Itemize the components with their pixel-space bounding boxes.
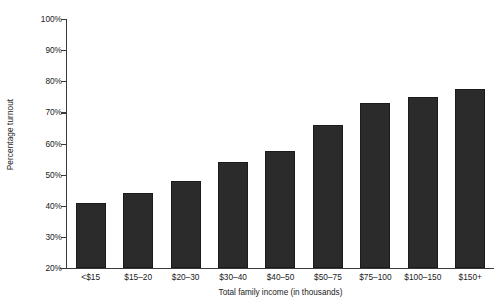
bar-slot [399,19,446,268]
x-axis-tick-label: $75–100 [359,272,391,282]
y-axis-tick-label: 60% [22,139,62,149]
y-axis-tick-label: 50% [22,170,62,180]
bar-slot [352,19,399,268]
bar[interactable] [171,181,201,268]
bar[interactable] [123,193,153,268]
y-axis-tick-label: 40% [22,201,62,211]
y-axis-tick-label: 80% [22,76,62,86]
y-axis-title: Percentage turnout [0,0,22,268]
bar-slot [257,19,304,268]
bar-slot [114,19,161,268]
y-axis-title-text: Percentage turnout [7,98,16,169]
x-axis-tick-label: $40–50 [267,272,295,282]
x-axis-tick-label: $100–150 [404,272,441,282]
y-axis-tick-label: 70% [22,107,62,117]
y-axis-tick-mark [61,81,67,82]
bar[interactable] [76,203,106,268]
x-axis-tick-label: $150+ [459,272,482,282]
y-axis-tick-mark [61,19,67,20]
x-axis-tick-label: $15–20 [124,272,152,282]
bar[interactable] [218,162,248,268]
x-axis-title: Total family income (in thousands) [67,288,494,297]
bar-slot [67,19,114,268]
plot-area [67,19,494,268]
y-axis-tick-label: 90% [22,45,62,55]
x-axis-tick-label: <$15 [81,272,100,282]
y-axis-tick-mark [61,50,67,51]
y-axis-tick-mark [61,268,67,269]
y-axis-tick-mark [61,112,67,113]
bar-slot [162,19,209,268]
y-axis-tick-mark [61,144,67,145]
y-axis-tick-label: 100% [22,14,62,24]
bar[interactable] [455,89,485,268]
y-axis-tick-label: 20% [22,263,62,273]
bar[interactable] [265,151,295,268]
y-axis-tick-mark [61,175,67,176]
bar[interactable] [360,103,390,268]
bar[interactable] [408,97,438,268]
x-axis-tick-label: $20–30 [172,272,200,282]
bar[interactable] [313,125,343,268]
bar-slot [304,19,351,268]
bar-slot [447,19,494,268]
x-axis-line [60,268,494,269]
bar-slot [209,19,256,268]
x-axis-tick-label: $50–75 [314,272,342,282]
bar-chart: Percentage turnout 20%30%40%50%60%70%80%… [0,0,498,307]
y-axis-tick-labels: 20%30%40%50%60%70%80%90%100% [20,0,62,307]
y-axis-tick-mark [61,237,67,238]
x-axis-tick-label: $30–40 [219,272,247,282]
y-axis-tick-mark [61,206,67,207]
y-axis-tick-label: 30% [22,232,62,242]
